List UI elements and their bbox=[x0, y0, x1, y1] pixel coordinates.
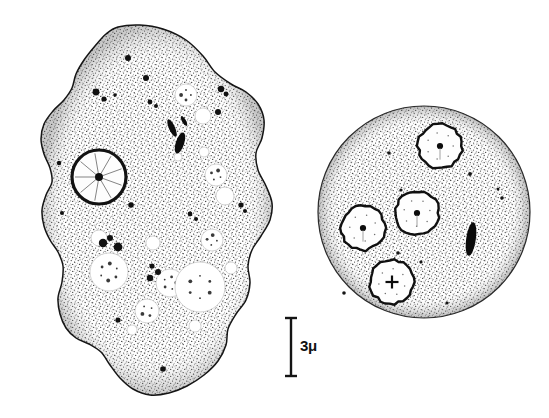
granule bbox=[115, 317, 120, 322]
nucleus-fleck bbox=[382, 272, 384, 274]
nucleus-karyosome bbox=[95, 173, 103, 181]
granule bbox=[149, 263, 154, 268]
vacuole-inclusion bbox=[216, 240, 218, 242]
nucleus-fleck bbox=[364, 240, 366, 242]
vacuole-inclusion bbox=[211, 233, 215, 237]
vacuole-inclusion bbox=[185, 89, 187, 91]
nucleus-fleck bbox=[396, 294, 398, 296]
vacuole-inclusion bbox=[188, 279, 192, 283]
nucleus-fleck bbox=[366, 215, 368, 217]
nucleus-fleck bbox=[422, 201, 424, 203]
vacuole bbox=[146, 236, 160, 250]
vacuole bbox=[201, 229, 223, 251]
vacuole-inclusion bbox=[115, 276, 118, 279]
granule bbox=[387, 151, 391, 155]
granule bbox=[155, 269, 161, 275]
nucleus-fleck bbox=[426, 221, 428, 223]
trophozoite-nucleus bbox=[72, 150, 126, 204]
granule bbox=[396, 251, 400, 255]
vacuole bbox=[127, 325, 137, 335]
cell-cyst bbox=[318, 106, 530, 318]
protozoan-figure bbox=[0, 0, 549, 418]
nucleus-fleck bbox=[402, 274, 404, 276]
vacuole-inclusion bbox=[199, 297, 201, 299]
vacuole bbox=[216, 187, 234, 205]
scale-bar-label: 3μ bbox=[300, 337, 317, 354]
granule bbox=[500, 196, 504, 200]
granule bbox=[128, 202, 134, 208]
granule bbox=[468, 172, 472, 176]
granule bbox=[99, 239, 107, 247]
nucleus-fleck bbox=[349, 227, 351, 229]
granule bbox=[194, 217, 198, 221]
granule bbox=[125, 55, 131, 61]
vacuole bbox=[205, 164, 227, 186]
vacuole-inclusion bbox=[164, 279, 166, 281]
granule bbox=[243, 209, 247, 213]
granule bbox=[342, 291, 346, 295]
vacuole-inclusion bbox=[220, 176, 222, 178]
vacuole-inclusion bbox=[101, 266, 104, 269]
granule bbox=[238, 202, 243, 207]
vacuole-inclusion bbox=[151, 307, 153, 309]
vacuole bbox=[189, 320, 201, 332]
vacuole-inclusion bbox=[100, 275, 102, 277]
vacuole-inclusion bbox=[106, 279, 110, 283]
vacuole-inclusion bbox=[171, 288, 173, 290]
vacuole-inclusion bbox=[170, 276, 173, 279]
vacuole-inclusion bbox=[208, 291, 212, 295]
vacuole-inclusion bbox=[216, 169, 220, 173]
nucleus-fleck bbox=[436, 158, 438, 160]
nucleus-fleck bbox=[429, 210, 431, 212]
granule bbox=[399, 188, 402, 191]
vacuole-inclusion bbox=[164, 286, 167, 289]
granule bbox=[114, 243, 123, 252]
vacuole-inclusion bbox=[208, 280, 211, 283]
granule bbox=[154, 104, 158, 108]
vacuole-inclusion bbox=[141, 312, 145, 316]
nucleus-fleck bbox=[353, 237, 355, 239]
vacuole-inclusion bbox=[206, 238, 209, 241]
granule bbox=[57, 161, 61, 165]
nucleus-fleck bbox=[392, 268, 394, 270]
nucleus-fleck bbox=[411, 200, 413, 202]
vacuole-inclusion bbox=[213, 179, 215, 181]
nucleus-fleck bbox=[385, 293, 387, 295]
granule bbox=[419, 260, 422, 263]
nucleus-fleck bbox=[404, 285, 406, 287]
vacuole bbox=[199, 147, 209, 157]
vacuole-inclusion bbox=[199, 275, 201, 277]
vacuole-inclusion bbox=[210, 172, 213, 175]
granule bbox=[107, 235, 113, 241]
nucleus-fleck bbox=[403, 209, 405, 211]
nucleus-fleck bbox=[355, 217, 357, 219]
granule bbox=[60, 211, 64, 215]
granule bbox=[188, 212, 193, 217]
nucleus-fleck bbox=[447, 156, 449, 158]
granule bbox=[113, 93, 117, 97]
nucleus-fleck bbox=[374, 222, 376, 224]
vacuole bbox=[175, 84, 197, 106]
vacuole-inclusion bbox=[190, 94, 192, 96]
vacuole-inclusion bbox=[143, 306, 145, 308]
vacuole-inclusion bbox=[210, 244, 212, 246]
granule bbox=[215, 109, 221, 115]
nucleus-fleck bbox=[447, 135, 449, 137]
nucleus-fleck bbox=[436, 132, 438, 134]
granule bbox=[497, 188, 500, 191]
granule bbox=[218, 86, 224, 92]
vacuole bbox=[195, 108, 211, 124]
vacuole-inclusion bbox=[149, 314, 152, 317]
nucleus-fleck bbox=[427, 151, 429, 153]
granule bbox=[93, 89, 100, 96]
vacuole-inclusion bbox=[189, 291, 192, 294]
nucleus-fleck bbox=[452, 145, 454, 147]
nucleus-fleck bbox=[406, 220, 408, 222]
vacuole-inclusion bbox=[116, 268, 118, 270]
granule bbox=[160, 366, 166, 372]
vacuole bbox=[225, 262, 237, 274]
vacuole-inclusion bbox=[185, 99, 188, 102]
vacuole-inclusion bbox=[179, 93, 183, 97]
granule bbox=[445, 301, 448, 304]
vacuole bbox=[135, 299, 159, 323]
